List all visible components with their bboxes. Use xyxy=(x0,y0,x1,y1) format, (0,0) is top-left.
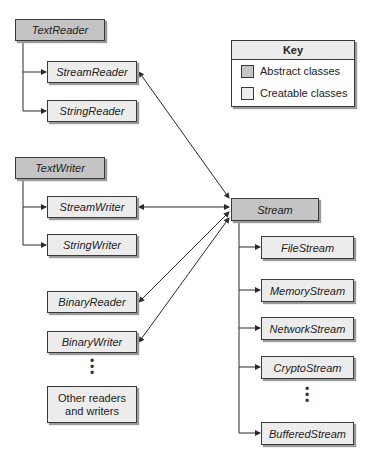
class-binarywriter: BinaryWriter xyxy=(47,331,137,353)
class-stringwriter: StringWriter xyxy=(47,234,137,256)
class-cryptostream: CryptoStream xyxy=(261,356,354,379)
class-memorystream: MemoryStream xyxy=(261,279,354,302)
legend-item-creatable: Creatable classes xyxy=(232,82,354,104)
class-bufferedstream: BufferedStream xyxy=(261,422,354,445)
legend-key: Key Abstract classes Creatable classes xyxy=(231,40,355,107)
legend-creatable-label: Creatable classes xyxy=(260,87,347,99)
class-streamwriter: StreamWriter xyxy=(47,196,137,218)
ellipsis-streams: ••• xyxy=(302,386,312,404)
class-other-readers-writers: Other readers and writers xyxy=(47,386,137,423)
class-filestream: FileStream xyxy=(261,236,354,259)
class-networkstream: NetworkStream xyxy=(261,317,354,340)
legend-title: Key xyxy=(232,41,354,60)
class-stringreader: StringReader xyxy=(47,100,137,122)
other-readers-label: Other readers and writers xyxy=(57,392,127,418)
legend-item-abstract: Abstract classes xyxy=(232,60,354,82)
class-textwriter: TextWriter xyxy=(15,157,105,179)
ellipsis-readers: ••• xyxy=(87,358,97,376)
class-textreader: TextReader xyxy=(15,19,105,41)
class-binaryreader: BinaryReader xyxy=(47,291,137,313)
legend-abstract-label: Abstract classes xyxy=(260,65,340,77)
creatable-swatch-icon xyxy=(241,87,254,100)
class-stream: Stream xyxy=(231,198,319,221)
class-streamreader: StreamReader xyxy=(47,61,137,83)
abstract-swatch-icon xyxy=(241,65,254,78)
